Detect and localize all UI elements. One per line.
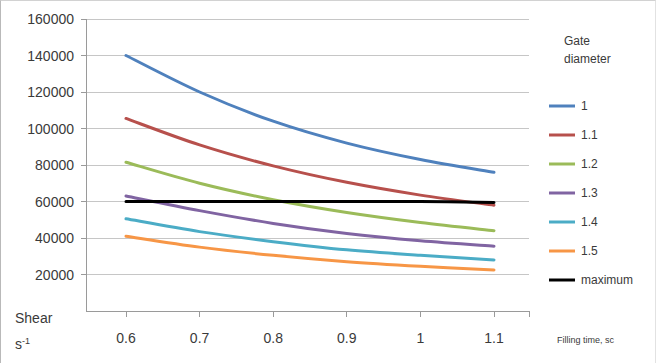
series-line-maximum <box>126 201 494 202</box>
shear-vs-filling-time-line-chart: 2000040000600008000010000012000014000016… <box>1 1 656 363</box>
legend-item-1-3[interactable]: 1.3 <box>549 186 598 200</box>
y-axis-tick-label: 100000 <box>27 121 74 137</box>
legend-item-maximum[interactable]: maximum <box>549 273 633 287</box>
y-axis-tick-labels: 2000040000600008000010000012000014000016… <box>27 11 74 283</box>
legend: Gatediameter11.11.21.31.41.5maximum <box>549 34 633 287</box>
legend-label-1-3: 1.3 <box>581 186 598 200</box>
x-axis-tick-labels: 0.60.70.80.911.1 <box>116 330 504 346</box>
y-axis-tick-label: 40000 <box>35 230 74 246</box>
gridlines <box>86 19 529 275</box>
series-line-1 <box>126 56 494 173</box>
legend-title-line1: Gate <box>564 34 590 48</box>
legend-label-1-2: 1.2 <box>581 157 598 171</box>
y-axis-title-line2: s-1 <box>15 336 30 352</box>
y-axis-title-line1: Shear <box>15 310 53 326</box>
legend-item-1-1[interactable]: 1.1 <box>549 128 598 142</box>
legend-label-1-5: 1.5 <box>581 244 598 258</box>
x-axis-tick-label: 0.8 <box>263 330 283 346</box>
legend-item-1-5[interactable]: 1.5 <box>549 244 598 258</box>
legend-label-maximum: maximum <box>581 273 633 287</box>
y-axis-tick-label: 20000 <box>35 267 74 283</box>
x-axis-title: Filling time, sc <box>557 335 615 345</box>
legend-item-1-2[interactable]: 1.2 <box>549 157 598 171</box>
x-axis-tick-label: 0.6 <box>116 330 136 346</box>
x-axis-tick-label: 0.7 <box>190 330 210 346</box>
x-axis-tick-label: 1.1 <box>484 330 504 346</box>
chart-figure: 2000040000600008000010000012000014000016… <box>0 0 656 363</box>
legend-label-1: 1 <box>581 99 588 113</box>
axis-titles: Shears-1Filling time, sc <box>15 310 615 352</box>
legend-item-1[interactable]: 1 <box>549 99 588 113</box>
y-axis-tick-label: 80000 <box>35 157 74 173</box>
x-axis-tick-label: 0.9 <box>337 330 357 346</box>
legend-label-1-4: 1.4 <box>581 215 598 229</box>
series-line-1-3 <box>126 196 494 246</box>
y-axis-tick-label: 60000 <box>35 194 74 210</box>
legend-item-1-4[interactable]: 1.4 <box>549 215 598 229</box>
y-axis-tick-label: 140000 <box>27 48 74 64</box>
x-axis-tick-label: 1 <box>417 330 425 346</box>
y-axis-tick-label: 160000 <box>27 11 74 27</box>
y-axis-tick-label: 120000 <box>27 84 74 100</box>
legend-title-line2: diameter <box>564 52 611 66</box>
y-axis-title-exponent: -1 <box>22 336 30 346</box>
legend-label-1-1: 1.1 <box>581 128 598 142</box>
